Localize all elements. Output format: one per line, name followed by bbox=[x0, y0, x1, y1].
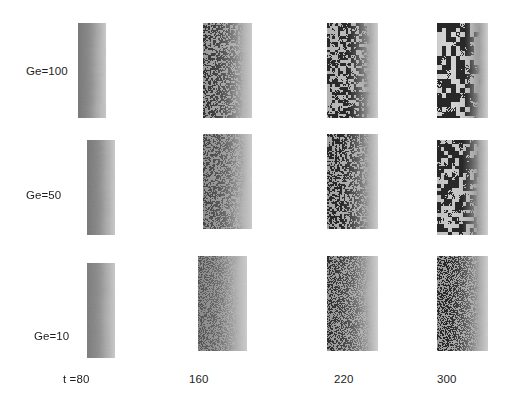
panel-ge10-t220-image bbox=[327, 256, 378, 351]
panel-ge10-t80-image bbox=[87, 263, 115, 358]
panel-ge100-t160-image bbox=[203, 23, 252, 118]
panel-ge10-t80 bbox=[87, 263, 115, 358]
column-label-t-220: 220 bbox=[334, 373, 354, 385]
row-label-ge-10: Ge=10 bbox=[34, 330, 69, 342]
column-label-t-80: t =80 bbox=[63, 373, 89, 385]
panel-ge10-t160 bbox=[198, 256, 247, 351]
panel-ge50-t160 bbox=[203, 134, 252, 229]
panel-ge100-t160 bbox=[203, 23, 252, 118]
row-label-ge-50: Ge=50 bbox=[26, 189, 61, 201]
column-label-t-300: 300 bbox=[437, 373, 457, 385]
panel-ge10-t220 bbox=[327, 256, 378, 351]
panel-ge100-t300-image bbox=[437, 23, 488, 118]
panel-ge10-t300-image bbox=[437, 256, 488, 351]
panel-ge50-t80-image bbox=[87, 140, 115, 235]
panel-ge10-t160-image bbox=[198, 256, 247, 351]
panel-ge50-t220-image bbox=[327, 134, 378, 229]
panel-ge10-t300 bbox=[437, 256, 488, 351]
panel-ge50-t80 bbox=[87, 140, 115, 235]
column-label-t-160: 160 bbox=[189, 373, 209, 385]
panel-ge100-t300 bbox=[437, 23, 488, 118]
figure-root: Ge=100Ge=50Ge=10 t =80160220300 bbox=[0, 0, 516, 416]
row-label-ge-100: Ge=100 bbox=[26, 65, 68, 77]
panel-ge100-t80-image bbox=[78, 23, 106, 118]
panel-ge50-t300 bbox=[437, 140, 488, 235]
panel-ge100-t220-image bbox=[327, 23, 378, 118]
panel-ge50-t220 bbox=[327, 134, 378, 229]
panel-ge50-t300-image bbox=[437, 140, 488, 235]
panel-ge100-t220 bbox=[327, 23, 378, 118]
panel-ge50-t160-image bbox=[203, 134, 252, 229]
panel-ge100-t80 bbox=[78, 23, 106, 118]
